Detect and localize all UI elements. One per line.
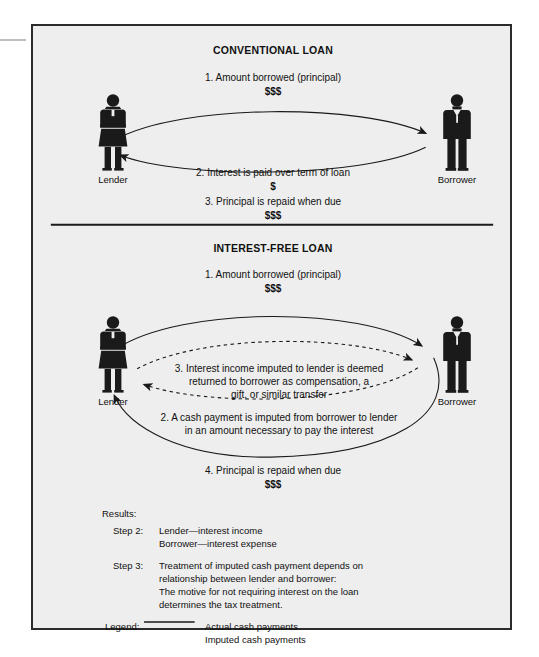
conventional-principal-label: 1. Amount borrowed (principal) [205, 72, 341, 84]
scan-artifact [0, 39, 26, 41]
conventional-repayment-amount: $$$ [265, 210, 282, 222]
results-step3-line1: Treatment of imputed cash payment depend… [159, 560, 363, 571]
conventional-repayment-label: 3. Principal is repaid when due [205, 196, 341, 208]
borrower-figure-interestfree [434, 315, 480, 393]
diagram-frame: CONVENTIONAL LOAN 1. Amount borrowed (pr… [31, 24, 512, 630]
interestfree-repayment-label: 4. Principal is repaid when due [205, 465, 341, 477]
interestfree-principal-arrow [116, 316, 421, 348]
conventional-interest-label: 2. Interest is paid over term of loan [196, 167, 350, 179]
imputed-interest-text-line2: returned to borrower as compensation, a [189, 376, 369, 388]
borrower-label-conventional: Borrower [438, 174, 477, 185]
conventional-interest-amount: $ [270, 181, 276, 193]
imputed-interest-text-line1: 3. Interest income imputed to lender is … [175, 363, 383, 375]
lender-label-conventional: Lender [98, 174, 128, 185]
conventional-principal-amount: $$$ [265, 86, 282, 98]
lender-figure-conventional [90, 93, 136, 171]
results-step3-line3: The motive for not requiring interest on… [159, 586, 359, 597]
conventional-loan-title: CONVENTIONAL LOAN [213, 44, 333, 56]
results-step3-line2: relationship between lender and borrower… [159, 573, 336, 584]
interestfree-principal-label: 1. Amount borrowed (principal) [205, 269, 341, 281]
lender-label-interestfree: Lender [98, 396, 128, 407]
results-heading: Results: [102, 508, 136, 519]
results-step2-label: Step 2: [113, 525, 143, 536]
legend-heading: Legend: [105, 621, 139, 632]
imputed-interest-text-line3: gift, or similar transfer [231, 389, 327, 401]
results-step3-line4: determines the tax treatment. [159, 599, 283, 610]
legend-solid-label: Actual cash payments [205, 621, 298, 632]
results-step2-line2: Borrower—interest expense [159, 538, 277, 549]
results-step3-label: Step 3: [113, 560, 143, 571]
results-step2-line1: Lender—interest income [159, 525, 263, 536]
interestfree-repayment-amount: $$$ [265, 479, 282, 491]
legend-dashed-label: Imputed cash payments [205, 634, 306, 645]
imputed-cash-text-line2: in an amount necessary to pay the intere… [185, 425, 373, 437]
borrower-label-interestfree: Borrower [438, 396, 477, 407]
imputed-cash-text-line1: 2. A cash payment is imputed from borrow… [161, 412, 398, 424]
lender-figure-interestfree [90, 315, 136, 393]
borrower-figure-conventional [434, 93, 480, 171]
conventional-principal-arrow [116, 112, 425, 140]
interest-free-loan-title: INTEREST-FREE LOAN [213, 242, 332, 254]
interestfree-principal-amount: $$$ [265, 283, 282, 295]
